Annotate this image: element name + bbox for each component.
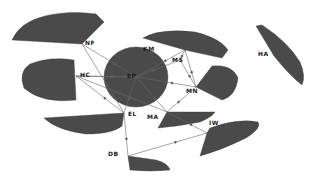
hub-label-el: EL	[128, 111, 137, 117]
edge-DB-IW	[128, 133, 207, 156]
edge-marker	[113, 63, 115, 65]
fan-IW	[200, 121, 259, 156]
hub-label-db: DB	[108, 151, 119, 157]
edge-marker	[189, 75, 191, 77]
hub-label-km: KM	[143, 46, 155, 52]
edge-marker	[128, 98, 130, 100]
edge-marker	[104, 97, 106, 99]
edge-marker	[111, 76, 113, 78]
edge-marker	[178, 101, 180, 103]
hub-label-hc: HC	[80, 72, 90, 78]
fan-MN	[196, 66, 238, 100]
edge-marker	[153, 69, 155, 71]
fan-DB	[128, 156, 170, 171]
hub-label-ep: EP	[127, 73, 137, 79]
hub-label-iw: IW	[209, 120, 219, 126]
edge-marker	[154, 97, 156, 99]
network-diagram	[0, 0, 322, 183]
edge-marker	[174, 141, 176, 143]
edge-marker	[106, 84, 108, 86]
fan-MA	[158, 112, 215, 128]
hub-label-ha: HA	[258, 51, 269, 57]
edge-marker	[125, 138, 127, 140]
hub-label-ma: MA	[147, 114, 159, 120]
hub-label-mn: MN	[186, 88, 198, 94]
edge-marker	[190, 124, 192, 126]
hub-label-nf: NF	[85, 40, 95, 46]
fan-HC	[22, 59, 76, 101]
hub-label-ms: MS	[172, 57, 183, 63]
edge-KM-MN	[185, 50, 196, 87]
edge-marker	[171, 82, 173, 84]
edge-marker	[164, 60, 166, 62]
edge-EL-DB	[124, 113, 128, 156]
edge-MS-MN	[180, 60, 196, 87]
edge-marker	[191, 71, 193, 73]
fan-EL	[44, 113, 124, 134]
